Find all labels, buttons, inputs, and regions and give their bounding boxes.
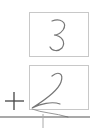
- handwriting-canvas[interactable]: [0, 0, 101, 128]
- stray-stroke: [32, 109, 68, 117]
- digit-three-stroke: [50, 20, 65, 51]
- plus-icon: [5, 92, 24, 110]
- digit-two-stroke: [32, 73, 62, 108]
